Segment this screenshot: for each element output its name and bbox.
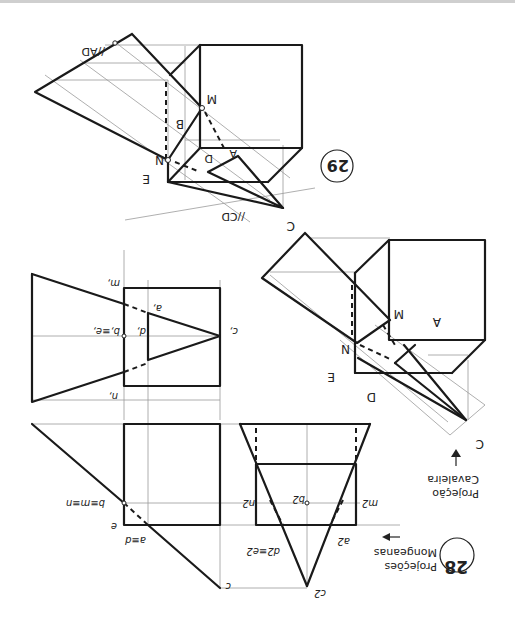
label-b: B (176, 117, 184, 131)
label-n2: n2 (242, 498, 255, 509)
label-a: A (432, 315, 441, 329)
arrow-icon (382, 533, 390, 541)
label-a: A (229, 147, 237, 160)
arrow-icon (451, 449, 461, 457)
label-m2: m2 (362, 498, 378, 509)
label-c: c (225, 581, 231, 592)
figure-29: //AD M B N E D A //CD C 29 (35, 34, 353, 233)
label-e: E (327, 370, 335, 384)
figure-28-title-2: Monge­anas (374, 546, 437, 559)
label-e: e (111, 521, 117, 532)
cavaleira-title-2: Cavaleira (427, 473, 479, 486)
technical-drawing: //AD M B N E D A //CD C 29 c, a, d, b,≡e… (0, 0, 515, 625)
label-m1: m, (107, 278, 120, 289)
figure-29-number: 29 (327, 156, 349, 175)
label-cd: //CD (221, 210, 245, 223)
label-c: C (287, 219, 295, 233)
label-bmn: b≡m≡n (66, 498, 105, 509)
label-c2: c2 (314, 588, 326, 599)
figure-28-number: 28 (444, 557, 468, 577)
label-d: D (367, 390, 376, 404)
label-m: M (394, 307, 404, 321)
label-n: N (155, 153, 164, 167)
label-d: D (205, 152, 213, 165)
figure-28-title-1: Projeções (384, 560, 437, 573)
label-c1: c, (229, 326, 238, 337)
label-c: C (476, 437, 484, 451)
label-n: N (341, 342, 350, 356)
figure-28-top-view: c, a, d, b,≡e, m, n, (32, 250, 238, 420)
label-d1: d, (136, 326, 146, 337)
cavaleira-title-1: Projeção (432, 487, 479, 500)
label-ad: //AD (82, 45, 105, 58)
label-a1: a, (153, 303, 162, 314)
label-e: E (142, 172, 150, 186)
figure-cavaleira: M A N E D C Cavaleira Projeção (262, 233, 485, 500)
label-m: M (207, 92, 217, 106)
label-a2: a2 (338, 536, 351, 547)
label-ad: a≡d (124, 535, 146, 546)
figure-28-views: b≡m≡n e a≡d c c2 a2 d2≡e2 b2 m2 n2 Proje… (32, 420, 474, 599)
label-n1: n, (108, 391, 118, 402)
label-b2: b2 (292, 494, 305, 505)
label-d2e2: d2≡e2 (246, 546, 280, 557)
label-b1e1: b,≡e, (93, 326, 120, 337)
